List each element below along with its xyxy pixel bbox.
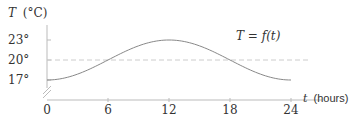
x-axis-unit: (hours)	[313, 92, 348, 104]
marks	[47, 40, 311, 80]
x-axis-var: t	[303, 92, 308, 105]
y-tick-label: 23°	[8, 33, 29, 47]
axis-break-mark	[43, 90, 51, 98]
chart: 0612182417°20°23° T (°C) t (hours) T = f…	[0, 0, 363, 120]
y-axis-unit: (°C)	[23, 6, 48, 20]
x-axis-label: t (hours)	[303, 92, 348, 105]
y-tick-label: 17°	[8, 73, 29, 87]
x-tick-label: 0	[43, 103, 51, 117]
x-tick-label: 18	[222, 103, 237, 117]
y-tick-label: 20°	[8, 53, 29, 67]
x-tick-label: 12	[161, 103, 176, 117]
x-tick-label: 6	[104, 103, 112, 117]
curve-label: T = f(t)	[236, 29, 281, 43]
y-axis-label: T (°C)	[8, 6, 47, 20]
y-axis-var: T	[8, 6, 17, 20]
x-tick-label: 24	[283, 103, 299, 117]
